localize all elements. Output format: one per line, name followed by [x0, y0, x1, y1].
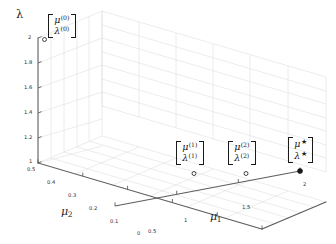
- tick-mu2-0p2: 0.2: [89, 206, 97, 211]
- vector-mu-symbol-2: μ: [234, 141, 240, 152]
- tick-lambda-1p6: 1.6: [24, 85, 32, 90]
- bracket-right-1: [199, 141, 204, 165]
- vector-mu-symbol-opt: μ: [294, 138, 300, 149]
- tick-mu2-0p4: 0.4: [47, 180, 55, 185]
- vector-lambda-superscript-1: (1): [189, 152, 198, 159]
- marker-iterate-2: [244, 172, 248, 176]
- axis-title-mu1-subscript: 1: [217, 215, 222, 224]
- annotation-iterate-1: μ(1) λ(1): [176, 141, 204, 165]
- tick-mu2-0p1: 0.1: [110, 219, 118, 224]
- vector-lambda-star-opt: ★: [301, 149, 307, 158]
- vector-lambda-symbol-1: λ: [182, 152, 188, 163]
- axis-lines: [38, 38, 326, 229]
- vector-mu-superscript-1: (1): [189, 141, 198, 148]
- ticks-lambda: [38, 37, 42, 163]
- tick-lambda-1p8: 1.8: [24, 60, 32, 65]
- marker-iterate-0: [43, 38, 47, 42]
- bracket-right-0: [71, 14, 76, 38]
- tick-lambda-1p4: 1.4: [24, 110, 32, 115]
- tick-mu2-0p3: 0.3: [68, 193, 76, 198]
- vector-lambda-symbol-2: λ: [234, 152, 240, 163]
- vector-mu-superscript-0: (0): [61, 14, 70, 21]
- bracket-right-opt: [308, 137, 313, 163]
- figure-canvas: λ 2 1.8 1.6 1.4 1.2 1 0.5 0.4 0.3 0.2 0.…: [0, 0, 336, 244]
- vector-column-2: μ(2) λ(2): [233, 141, 251, 165]
- axis-title-mu1: μ1: [210, 211, 221, 224]
- vector-row-lambda-2: λ(2): [234, 153, 249, 164]
- annotation-optimum: μ★ λ★: [288, 137, 313, 163]
- annotation-iterate-2: μ(2) λ(2): [228, 141, 256, 165]
- tick-lambda-2: 2: [28, 35, 31, 40]
- tick-mu2-0p5: 0.5: [27, 167, 35, 172]
- vector-row-lambda-1: λ(1): [182, 153, 197, 164]
- tick-lambda-1: 1: [29, 159, 32, 164]
- vector-lambda-superscript-0: (0): [61, 25, 70, 32]
- annotation-iterate-0: μ(0) λ(0): [48, 14, 76, 38]
- vector-column-opt: μ★ λ★: [293, 137, 309, 163]
- tick-mu1-0p5: 0.5: [148, 229, 156, 234]
- tick-mu1-2: 2: [303, 182, 306, 187]
- vector-lambda-superscript-2: (2): [241, 152, 250, 159]
- vector-lambda-symbol-0: λ: [54, 25, 60, 36]
- tick-lambda-1p2: 1.2: [24, 135, 32, 140]
- vector-row-lambda-opt: λ★: [294, 150, 307, 162]
- bracket-right-2: [251, 141, 256, 165]
- tick-mu2-0: 0: [137, 231, 140, 236]
- tick-mu1-1p5: 1.5: [242, 205, 250, 210]
- vector-column-1: μ(1) λ(1): [181, 141, 199, 165]
- vector-lambda-symbol-opt: λ: [294, 150, 300, 161]
- vector-row-lambda-0: λ(0): [54, 26, 69, 37]
- vector-mu-symbol-0: μ: [54, 14, 60, 25]
- ticks-mu1: [115, 167, 300, 206]
- axis-title-mu2-subscript: 2: [68, 210, 73, 219]
- vector-column-0: μ(0) λ(0): [53, 14, 71, 38]
- vector-mu-symbol-1: μ: [182, 141, 188, 152]
- axis-mu1: [262, 202, 326, 229]
- marker-optimum: [298, 169, 303, 174]
- axis-mu1-front-edge: [115, 171, 300, 206]
- axis-title-mu2: μ2: [61, 206, 72, 219]
- tick-mu1-1: 1: [184, 218, 187, 223]
- vector-mu-superscript-2: (2): [241, 141, 250, 148]
- vector-mu-star-opt: ★: [301, 137, 307, 146]
- axis-title-lambda: λ: [16, 9, 23, 21]
